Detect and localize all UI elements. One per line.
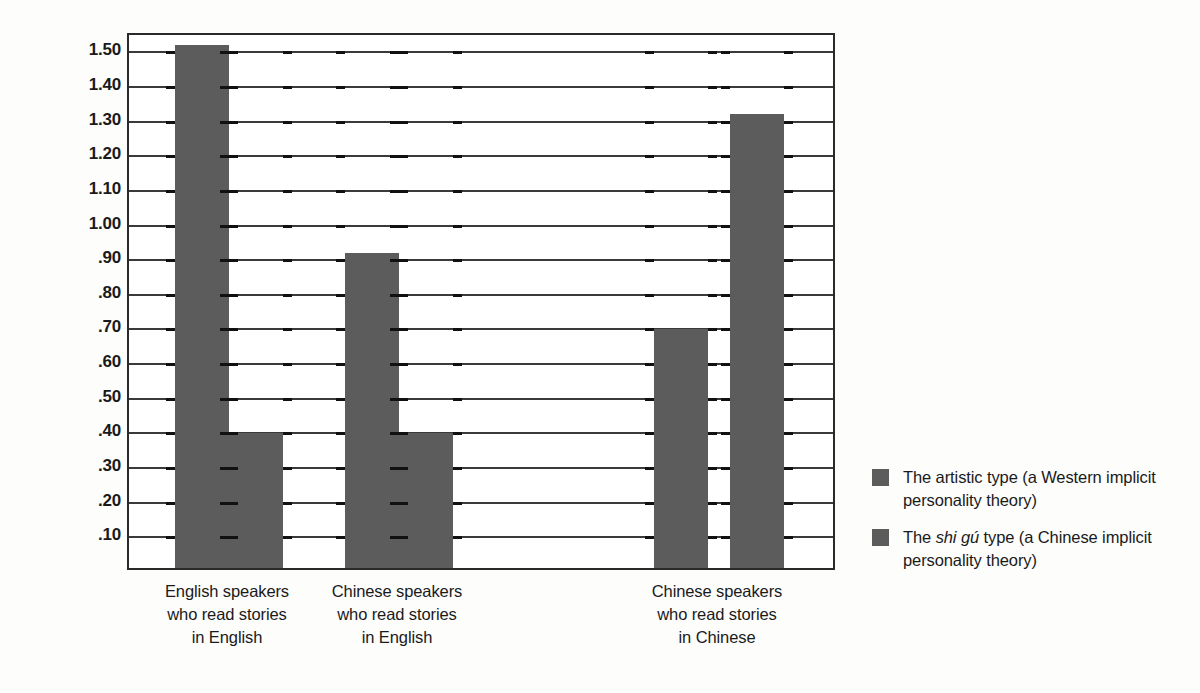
gridline-tick [390,190,399,193]
gridline-tick [708,363,717,366]
gridline-tick [283,155,292,158]
legend-label-prefix: The [903,528,936,546]
gridline-tick [399,259,408,262]
gridline-tick [708,155,717,158]
gridline-tick [390,259,399,262]
x-axis-label-line: in Chinese [607,626,827,649]
gridline-tick [229,328,238,331]
legend-item[interactable]: The artistic type (a Western implicitper… [872,466,1192,512]
gridline-tick [166,536,175,539]
gridline-tick [708,328,717,331]
gridline-tick [166,259,175,262]
gridline-tick [283,363,292,366]
gridline-tick [283,467,292,470]
gridline-tick [229,294,238,297]
gridline-tick [283,328,292,331]
y-axis-tick-label: 1.40 [89,75,121,95]
gridline-tick [220,363,229,366]
gridline-tick [336,86,345,89]
gridline-tick [336,121,345,124]
gridline-tick [453,121,462,124]
gridline-tick [784,225,793,228]
gridline-tick [390,225,399,228]
gridline-tick [453,502,462,505]
gridline-tick [453,190,462,193]
gridline-tick [390,328,399,331]
gridline-tick [166,294,175,297]
gridline-tick [336,155,345,158]
gridline-tick [283,294,292,297]
gridline-tick [390,155,399,158]
gridline-tick [645,121,654,124]
gridline-tick [336,190,345,193]
gridline-tick [784,363,793,366]
gridline-tick [399,467,408,470]
gridline-tick [708,121,717,124]
y-axis-tick-label: .50 [98,387,121,407]
gridline-tick [708,225,717,228]
gridline-tick [721,328,730,331]
gridline-tick [708,398,717,401]
gridline-tick [220,225,229,228]
gridline-tick [721,121,730,124]
gridline-tick [708,294,717,297]
gridline-tick [283,225,292,228]
gridline-tick [784,121,793,124]
gridline-tick [645,155,654,158]
gridline-tick [399,225,408,228]
gridline-tick [784,86,793,89]
gridline-tick [399,51,408,54]
legend-label-line1: The artistic type (a Western implicit [903,466,1156,489]
y-axis-tick-label: 1.20 [89,144,121,164]
gridline-tick [229,51,238,54]
gridline-tick [721,225,730,228]
gridline-tick [229,121,238,124]
gridline-tick [229,363,238,366]
y-axis-tick-label: .30 [98,456,121,476]
bar [345,253,399,568]
gridline-tick [220,259,229,262]
x-axis-label-line: who read stories [287,603,507,626]
gridline-tick [336,432,345,435]
x-axis-label-line: Chinese speakers [287,580,507,603]
gridline-tick [166,155,175,158]
gridline-tick [453,259,462,262]
gridline-tick [166,398,175,401]
gridline-tick [390,432,399,435]
gridline-tick [390,363,399,366]
x-axis-label-line: Chinese speakers [607,580,827,603]
gridline-tick [708,259,717,262]
gridline-tick [229,398,238,401]
legend-item[interactable]: The shi gú type (a Chinese implicitperso… [872,526,1192,572]
gridline-tick [390,502,399,505]
gridline-tick [708,86,717,89]
gridline-tick [336,51,345,54]
x-axis-category-labels: English speakerswho read storiesin Engli… [127,580,835,660]
gridline-tick [645,225,654,228]
gridline-tick [229,536,238,539]
gridline-tick [453,86,462,89]
chart-legend: The artistic type (a Western implicitper… [872,466,1192,586]
gridline-tick [336,225,345,228]
gridline-tick [784,398,793,401]
gridline-tick [390,51,399,54]
gridline-tick [645,398,654,401]
gridline-tick [166,467,175,470]
gridline-tick [283,502,292,505]
gridline-tick [283,432,292,435]
gridline-tick [399,432,408,435]
y-axis-tick-labels: 1.501.401.301.201.101.00.90.80.70.60.50.… [46,33,121,570]
legend-label-italic-term: shi gú [936,528,979,546]
gridline-tick [645,51,654,54]
gridline-tick [784,155,793,158]
gridline-tick [390,467,399,470]
gridline-tick [336,467,345,470]
gridline-tick [645,294,654,297]
gridline-tick [399,190,408,193]
gridline-tick [453,536,462,539]
gridline-tick [645,328,654,331]
gridline-tick [229,155,238,158]
gridline-tick [708,432,717,435]
x-axis-label-line: who read stories [607,603,827,626]
gridline-tick [220,536,229,539]
